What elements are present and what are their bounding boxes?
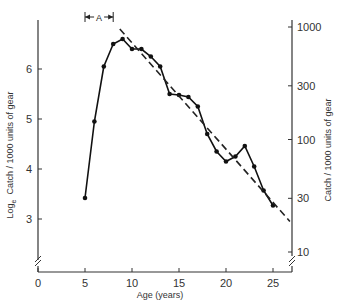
age-bracket-annotation: A [85,12,113,23]
data-point [196,104,201,109]
x-tick-label: 15 [173,277,185,289]
axes [35,20,295,272]
data-point [214,149,219,154]
x-tick-label: 25 [267,277,279,289]
data-point [130,47,135,52]
x-axis-title: Age (years) [137,290,184,300]
x-tick-label: 0 [35,277,41,289]
data-point [224,159,229,164]
x-tick-label: 20 [220,277,232,289]
x-ticks: 0510152025 [35,268,279,289]
data-point [92,119,97,124]
observed-line [85,39,273,206]
left-y-tick-label: 6 [26,63,32,75]
left-y-ticks: 3456 [26,63,42,225]
right-y-tick-label: 10 [297,246,309,258]
data-point [139,47,144,52]
data-point [120,37,125,42]
left-y-tick-label: 4 [26,163,32,175]
left-y-tick-label: 3 [26,213,32,225]
x-tick-label: 10 [126,277,138,289]
left-y-tick-label: 5 [26,113,32,125]
data-point [186,95,191,100]
right-y-ticks: 10301003001000 [288,21,321,258]
right-y-tick-label: 1000 [297,21,321,33]
data-point [205,132,210,137]
data-point [233,154,238,159]
data-point [83,196,88,201]
right-y-tick-label: 100 [297,134,315,146]
right-y-tick-label: 300 [297,80,315,92]
right-axis-break-icon [289,256,295,266]
data-point [243,144,248,149]
data-point [102,64,107,69]
series [83,29,290,222]
data-point [158,64,163,69]
catch-curve-chart: 0510152025 3456 10301003001000 A Age (ye… [0,0,341,302]
annotation-label: A [96,13,102,23]
right-y-tick-label: 30 [297,192,309,204]
data-point [149,54,154,59]
data-point [252,164,257,169]
data-point [167,92,172,97]
data-point [111,42,116,47]
x-tick-label: 5 [82,277,88,289]
left-y-axis-title: LogeCatch / 1000 units of gear [5,91,17,218]
right-y-axis-title: Catch / 1000 units of gear [323,98,333,201]
